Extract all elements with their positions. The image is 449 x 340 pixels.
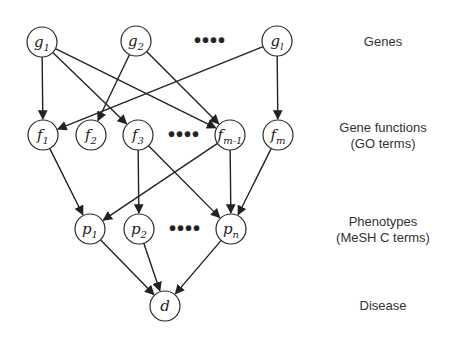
nodes-layer: g1g2glf1f2f3fm-1fmp1p2pnd (27, 26, 293, 321)
layer-label-phenotypes: Phenotypes (MeSH C terms) (318, 214, 448, 246)
label-line: Genes (318, 34, 448, 50)
ellipsis-1: •••• (168, 123, 200, 145)
node-g2: g2 (121, 26, 151, 56)
label-line: Disease (318, 298, 448, 314)
node-pn: pn (216, 214, 246, 244)
edge-fm-1-to-pn (230, 150, 231, 213)
edge-fm-to-pn (238, 148, 271, 214)
label-line: Gene functions (318, 120, 448, 136)
node-p2: p2 (124, 214, 154, 244)
edge-p2-to-d (144, 243, 160, 291)
edge-g1-to-fm-1 (55, 49, 215, 128)
bayesian-network-diagram: g1g2glf1f2f3fm-1fmp1p2pnd •••••••••••• (0, 0, 449, 340)
edge-f3-to-p2 (138, 150, 139, 213)
label-line: Phenotypes (318, 214, 448, 230)
ellipsis-2: •••• (169, 217, 201, 239)
edges-layer (42, 47, 278, 295)
layer-label-disease: Disease (318, 298, 448, 314)
edge-g1-to-f3 (53, 52, 127, 123)
layer-label-gene-functions: Gene functions (GO terms) (318, 120, 448, 152)
edge-fm-1-to-p1 (103, 143, 217, 220)
node-g1: g1 (27, 27, 57, 57)
ellipsis-0: •••• (194, 29, 226, 51)
node-d: d (150, 291, 180, 321)
label-line: (GO terms) (318, 136, 448, 152)
node-fm-1: fm-1 (215, 120, 245, 150)
node-f3: f3 (123, 120, 153, 150)
layer-label-genes: Genes (318, 34, 448, 50)
node-f2: f2 (76, 120, 106, 150)
edge-g1-to-f1 (42, 57, 43, 119)
node-fm: fm (263, 120, 293, 150)
label-line: (MeSH C terms) (318, 230, 448, 246)
node-gl: gl (262, 26, 292, 56)
node-p1: p1 (75, 214, 105, 244)
node-label: d (160, 297, 170, 315)
edge-g2-to-fm-1 (147, 52, 219, 124)
edge-f1-to-p1 (50, 148, 83, 214)
edge-f3-to-pn (149, 146, 220, 218)
edge-gl-to-fm (277, 56, 278, 119)
node-f1: f1 (28, 120, 58, 150)
edge-pn-to-d (175, 240, 221, 293)
